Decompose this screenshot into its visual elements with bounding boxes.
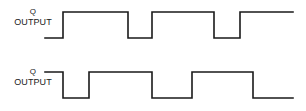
timing-diagram-figure: Q OUTPUT Q OUTPUT	[0, 0, 306, 111]
waveform-trace-q	[45, 12, 293, 38]
waveform-trace-qbar	[45, 72, 293, 98]
waveform-canvas	[0, 0, 306, 111]
